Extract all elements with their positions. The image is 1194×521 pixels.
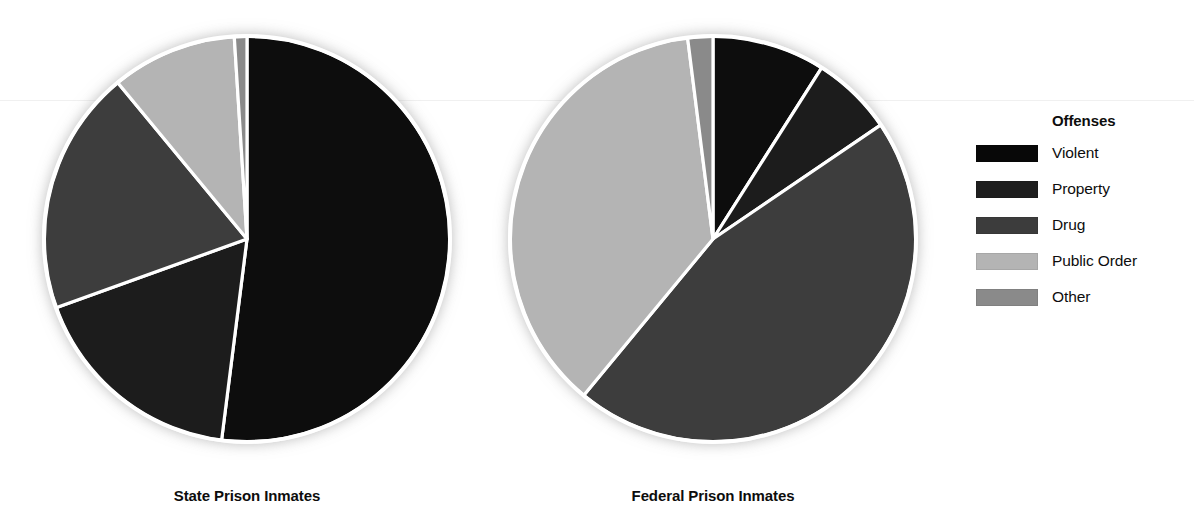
legend-item-property: Property <box>976 177 1186 201</box>
legend-label-other: Other <box>1052 288 1090 306</box>
legend-label-property: Property <box>1052 180 1110 198</box>
pie-svg-federal <box>474 0 952 478</box>
legend-swatch-public-order <box>976 253 1038 270</box>
legend-label-violent: Violent <box>1052 144 1098 162</box>
pie-svg-state <box>8 0 486 478</box>
legend-item-public-order: Public Order <box>976 249 1186 273</box>
pie-chart-federal: Federal Prison Inmates <box>474 0 952 478</box>
legend-item-violent: Violent <box>976 141 1186 165</box>
legend: Offenses Violent Property Drug Public Or… <box>976 112 1186 321</box>
legend-label-drug: Drug <box>1052 216 1085 234</box>
pie-slice-violent <box>222 36 450 442</box>
legend-swatch-property <box>976 181 1038 198</box>
pie-chart-state: State Prison Inmates <box>8 0 486 478</box>
legend-title: Offenses <box>1052 112 1186 129</box>
pie-caption-federal: Federal Prison Inmates <box>474 487 952 504</box>
prison-offense-pie-figure: State Prison Inmates Federal Prison Inma… <box>0 0 1194 521</box>
pie-slices-state <box>44 36 450 442</box>
legend-item-drug: Drug <box>976 213 1186 237</box>
legend-label-public-order: Public Order <box>1052 252 1137 270</box>
legend-swatch-violent <box>976 145 1038 162</box>
legend-item-other: Other <box>976 285 1186 309</box>
legend-swatch-other <box>976 289 1038 306</box>
pie-slices-federal <box>510 36 916 442</box>
pie-caption-state: State Prison Inmates <box>8 487 486 504</box>
legend-swatch-drug <box>976 217 1038 234</box>
